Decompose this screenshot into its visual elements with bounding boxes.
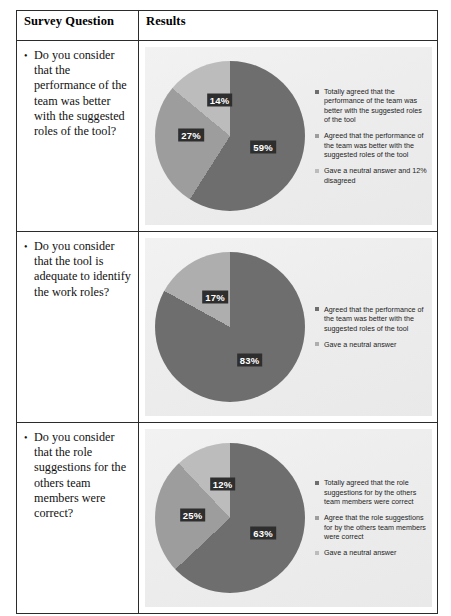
header-results: Results	[139, 11, 438, 41]
legend-item: Gave a neutral answer	[315, 340, 428, 349]
pie-graphic-2: 83% 17%	[155, 252, 305, 402]
legend-item: Totally agreed that the performance of t…	[315, 87, 428, 124]
table-row: Do you consider that the tool is adequat…	[17, 232, 438, 423]
pie-label-3-0: 63%	[250, 527, 276, 540]
pie-label-2-1: 17%	[202, 291, 228, 304]
legend-swatch-icon	[315, 307, 319, 311]
results-cell-2: 83% 17% Agreed that the performance of t…	[139, 232, 438, 423]
question-list-2: Do you consider that the tool is adequat…	[23, 239, 132, 300]
legend-item: Agreed that the performance of the team …	[315, 305, 428, 333]
pie-legend-3: Totally agreed that the role suggestions…	[305, 478, 432, 557]
pie-slices-2	[155, 252, 305, 402]
pie-slices-3	[155, 443, 305, 593]
pie-legend-2: Agreed that the performance of the team …	[305, 305, 432, 349]
question-cell-2: Do you consider that the tool is adequat…	[17, 232, 139, 423]
legend-swatch-icon	[315, 90, 319, 94]
table-header-row: Survey Question Results	[17, 11, 438, 41]
legend-item: Gave a neutral answer and 12% disagreed	[315, 166, 428, 185]
legend-label: Agreed that the performance of the team …	[324, 305, 424, 333]
legend-label: Gave a neutral answer	[324, 548, 396, 557]
legend-swatch-icon	[315, 551, 319, 555]
pie-chart-1: 59% 27% 14% Totally agreed that the perf…	[145, 47, 432, 225]
legend-swatch-icon	[315, 481, 319, 485]
legend-label: Totally agreed that the performance of t…	[324, 87, 422, 124]
legend-item: Totally agreed that the role suggestions…	[315, 478, 428, 506]
legend-label: Totally agreed that the role suggestions…	[324, 478, 416, 506]
pie-chart-3: 63% 25% 12% Totally agreed that the role…	[145, 429, 432, 607]
pie-label-1-1: 27%	[178, 128, 204, 141]
pie-graphic-3: 63% 25% 12%	[155, 443, 305, 593]
document-page: Survey Question Results Do you consider …	[0, 0, 451, 616]
question-text-1: Do you consider that the performance of …	[23, 48, 132, 139]
header-survey-question: Survey Question	[17, 11, 139, 41]
survey-results-table: Survey Question Results Do you consider …	[16, 10, 438, 614]
legend-item: Agreed that the performance of the team …	[315, 131, 428, 159]
legend-swatch-icon	[315, 134, 319, 138]
question-cell-1: Do you consider that the performance of …	[17, 41, 139, 232]
legend-item: Agree that the role suggestions for by t…	[315, 513, 428, 541]
legend-item: Gave a neutral answer	[315, 548, 428, 557]
legend-label: Agree that the role suggestions for by t…	[324, 513, 426, 541]
legend-label: Agreed that the performance of the team …	[324, 131, 424, 159]
question-cell-3: Do you consider that the role suggestion…	[17, 423, 139, 614]
legend-label: Gave a neutral answer and 12% disagreed	[324, 166, 427, 184]
pie-graphic-1: 59% 27% 14%	[155, 61, 305, 211]
pie-legend-1: Totally agreed that the performance of t…	[305, 87, 432, 185]
results-cell-3: 63% 25% 12% Totally agreed that the role…	[139, 423, 438, 614]
question-list-3: Do you consider that the role suggestion…	[23, 430, 132, 521]
legend-swatch-icon	[315, 169, 319, 173]
question-text-3: Do you consider that the role suggestion…	[23, 430, 132, 521]
table-row: Do you consider that the role suggestion…	[17, 423, 438, 614]
pie-label-1-0: 59%	[250, 140, 276, 153]
pie-label-3-1: 25%	[180, 509, 206, 522]
table-row: Do you consider that the performance of …	[17, 41, 438, 232]
pie-label-1-2: 14%	[207, 94, 233, 107]
legend-swatch-icon	[315, 342, 319, 346]
question-text-2: Do you consider that the tool is adequat…	[23, 239, 132, 300]
legend-swatch-icon	[315, 516, 319, 520]
pie-label-2-0: 83%	[237, 354, 263, 367]
question-list-1: Do you consider that the performance of …	[23, 48, 132, 139]
pie-chart-2: 83% 17% Agreed that the performance of t…	[145, 238, 432, 416]
results-cell-1: 59% 27% 14% Totally agreed that the perf…	[139, 41, 438, 232]
pie-label-3-2: 12%	[210, 477, 236, 490]
legend-label: Gave a neutral answer	[324, 340, 396, 349]
